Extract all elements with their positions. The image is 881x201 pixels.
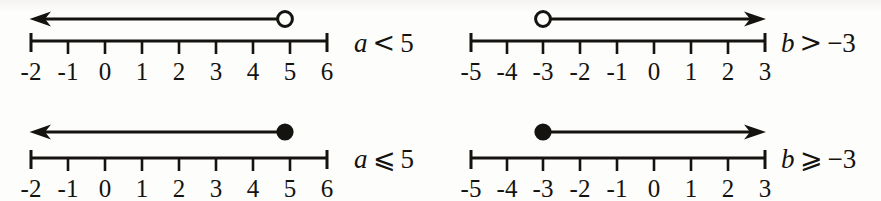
inequality-variable: b xyxy=(781,28,795,58)
tick-labels: -5 -4 -3 -2 -1 0 1 2 3 xyxy=(461,58,772,85)
tick-label: 6 xyxy=(321,58,334,85)
tick-label: -5 xyxy=(461,175,482,201)
tick-label: 6 xyxy=(321,175,334,201)
tick-label: 2 xyxy=(173,175,186,201)
tick-label: -2 xyxy=(21,58,42,85)
inequality-relation: > xyxy=(795,27,828,58)
tick-label: 2 xyxy=(722,175,735,201)
inequality-relation: ⩽ xyxy=(368,143,401,174)
number-line-panel-a-less-than-5: -2 -1 0 1 2 3 4 5 6 a<5 xyxy=(0,0,440,100)
tick-label: 2 xyxy=(173,58,186,85)
tick-label: 1 xyxy=(136,58,149,85)
inequality-label: b>−3 xyxy=(781,29,856,57)
number-line-panel-b-greater-equal-neg3: -5 -4 -3 -2 -1 0 1 2 3 b⩾−3 xyxy=(440,101,880,201)
inequality-value: −3 xyxy=(828,144,857,174)
inequality-label: b⩾−3 xyxy=(781,145,856,173)
inequality-variable: a xyxy=(354,28,368,58)
tick-label: 2 xyxy=(722,58,735,85)
tick-label: -4 xyxy=(497,175,518,201)
inequality-relation: < xyxy=(368,27,401,58)
inequality-value: 5 xyxy=(401,144,415,174)
tick-label: -2 xyxy=(570,175,591,201)
endpoint-open-circle xyxy=(536,12,551,27)
tick-label: -1 xyxy=(607,175,628,201)
tick-label: 0 xyxy=(648,175,661,201)
inequality-relation: ⩾ xyxy=(795,143,828,174)
number-line-panel-a-less-equal-5: -2 -1 0 1 2 3 4 5 6 a⩽5 xyxy=(0,101,440,201)
tick-label: -2 xyxy=(21,175,42,201)
tick-marks xyxy=(507,41,728,54)
tick-label: -3 xyxy=(533,58,554,85)
inequality-label: a⩽5 xyxy=(354,145,414,173)
tick-label: 3 xyxy=(210,58,223,85)
tick-label: 0 xyxy=(99,58,112,85)
tick-marks xyxy=(507,158,728,171)
tick-label: -5 xyxy=(461,58,482,85)
tick-label: 3 xyxy=(759,175,772,201)
tick-label: -2 xyxy=(570,58,591,85)
endpoint-closed-circle xyxy=(276,123,293,140)
number-line-panel-b-greater-than-neg3: -5 -4 -3 -2 -1 0 1 2 3 b>−3 xyxy=(440,0,880,100)
tick-labels: -5 -4 -3 -2 -1 0 1 2 3 xyxy=(461,175,772,201)
tick-label: 1 xyxy=(136,175,149,201)
endpoint-closed-circle xyxy=(534,123,551,140)
tick-label: -1 xyxy=(607,58,628,85)
inequality-variable: a xyxy=(354,144,368,174)
tick-label: 0 xyxy=(648,58,661,85)
endpoint-open-circle xyxy=(278,12,293,27)
tick-label: 4 xyxy=(247,58,260,85)
tick-label: -1 xyxy=(58,58,79,85)
inequality-value: 5 xyxy=(400,28,414,58)
tick-label: 0 xyxy=(99,175,112,201)
tick-label: 4 xyxy=(247,175,260,201)
tick-marks xyxy=(68,41,290,54)
inequality-variable: b xyxy=(781,144,795,174)
tick-label: -4 xyxy=(497,58,518,85)
tick-label: -1 xyxy=(58,175,79,201)
tick-label: 1 xyxy=(685,175,698,201)
figure-canvas: -2 -1 0 1 2 3 4 5 6 a<5 xyxy=(0,0,881,201)
tick-label: -3 xyxy=(533,175,554,201)
tick-label: 3 xyxy=(759,58,772,85)
tick-labels: -2 -1 0 1 2 3 4 5 6 xyxy=(21,175,334,201)
tick-label: 5 xyxy=(284,175,297,201)
tick-labels: -2 -1 0 1 2 3 4 5 6 xyxy=(21,58,334,85)
inequality-label: a<5 xyxy=(354,29,414,57)
tick-marks xyxy=(68,158,290,171)
tick-label: 1 xyxy=(685,58,698,85)
tick-label: 3 xyxy=(210,175,223,201)
tick-label: 5 xyxy=(284,58,297,85)
inequality-value: −3 xyxy=(827,28,856,58)
